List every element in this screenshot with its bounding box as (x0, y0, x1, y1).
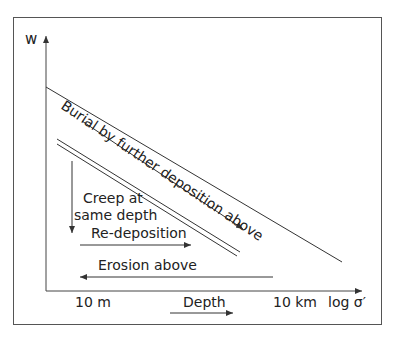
creep-label-line2: same depth (74, 207, 157, 223)
x-tick-10m: 10 m (75, 294, 111, 310)
creep-label-line1: Creep at (83, 190, 143, 206)
diagram-canvas: w log σ′ 10 m 10 km Depth Burial by furt… (0, 0, 402, 341)
y-axis-label: w (25, 30, 37, 48)
erosion-label: Erosion above (98, 257, 197, 273)
depth-label: Depth (183, 294, 226, 310)
redeposition-label: Re-deposition (91, 225, 187, 241)
x-tick-10km: 10 km (273, 294, 317, 310)
x-axis-label: log σ′ (328, 294, 366, 310)
